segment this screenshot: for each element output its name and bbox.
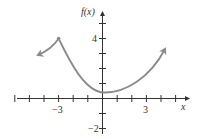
- function-graph: f(x) x −3 3 4 −2: [0, 0, 198, 139]
- x-tick-label-3: 3: [143, 104, 148, 115]
- y-tick-label-4: 4: [92, 33, 97, 44]
- y-axis-label: f(x): [81, 6, 96, 18]
- x-tick-label-neg3: −3: [52, 104, 63, 115]
- peak-point: [57, 37, 61, 41]
- curve-right-piece: [59, 39, 165, 93]
- curve-left-piece: [38, 39, 59, 56]
- y-tick-label-neg2: −2: [88, 123, 99, 134]
- x-axis-label: x: [180, 101, 186, 112]
